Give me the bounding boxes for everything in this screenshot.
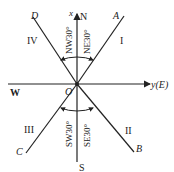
label-a: A: [112, 10, 120, 21]
quadrant-iii: III: [24, 124, 34, 135]
label-origin: O: [65, 86, 72, 97]
arc-ne: [77, 57, 93, 60]
angle-nw30: NW30°: [64, 26, 74, 54]
quadrant-ii: II: [125, 125, 132, 136]
quadrant-iv: IV: [27, 35, 38, 46]
label-y-east: y(E): [150, 79, 169, 91]
label-b: B: [136, 143, 142, 154]
compass-diagram: D A C B x N S W y(E) O I IV III II NW30°…: [0, 0, 174, 172]
arc-nw: [61, 57, 77, 60]
label-d: D: [30, 10, 39, 21]
label-north: N: [80, 11, 87, 22]
label-c: C: [16, 146, 23, 157]
angle-sw30: SW30°: [64, 121, 74, 148]
label-south: S: [79, 162, 85, 172]
angle-se30: SE30°: [82, 123, 92, 147]
quadrant-i: I: [120, 35, 123, 46]
angle-ne30: NE30°: [82, 29, 92, 54]
label-x: x: [68, 8, 73, 18]
arc-se: [77, 108, 93, 111]
arc-sw: [61, 108, 77, 111]
origin-point: [75, 82, 79, 86]
label-west: W: [10, 87, 20, 98]
